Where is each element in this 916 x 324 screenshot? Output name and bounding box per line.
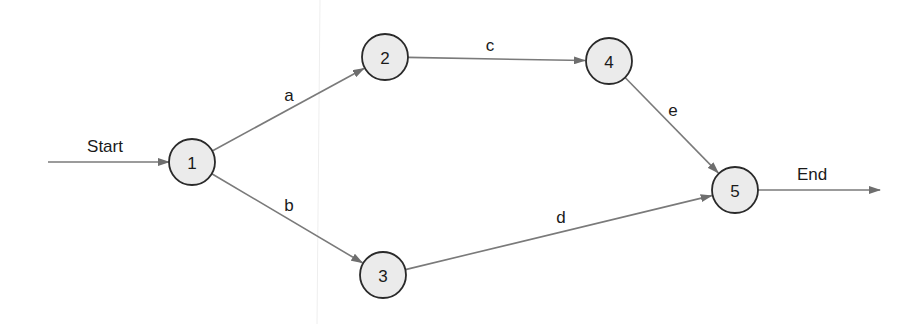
node-label: 2 (380, 49, 389, 68)
network-diagram: 12345 StartEndabcde (0, 0, 916, 324)
edge-label-a: a (284, 86, 294, 105)
node-2: 2 (362, 34, 408, 80)
start-label: Start (87, 137, 123, 156)
node-3: 3 (360, 252, 406, 298)
edge-a-arrow (212, 68, 364, 151)
edge-b-arrow (212, 174, 363, 263)
edge-label-b: b (284, 196, 293, 215)
edge-label-d: d (556, 208, 565, 227)
node-label: 5 (730, 182, 739, 201)
node-1: 1 (169, 139, 215, 185)
edge-e-arrow (625, 77, 718, 172)
nodes-layer: 12345 (169, 34, 758, 298)
end-label: End (797, 165, 827, 184)
node-label: 3 (378, 267, 387, 286)
node-label: 1 (187, 154, 196, 173)
node-4: 4 (586, 38, 632, 84)
edge-c-arrow (408, 57, 585, 60)
edge-label-c: c (486, 36, 495, 55)
node-label: 4 (604, 53, 613, 72)
edge-label-e: e (668, 101, 677, 120)
page-fold-line (317, 0, 320, 324)
node-5: 5 (712, 167, 758, 213)
